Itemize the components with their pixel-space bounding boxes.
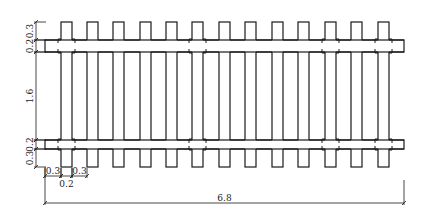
horizontal-dimension-label: 0.2 <box>59 179 73 189</box>
vertical-dimension-label: 0.2 <box>25 137 35 151</box>
horizontal-dimension-label: 0.3 <box>72 166 87 176</box>
lower-rail <box>45 140 404 149</box>
vertical-dimension-label: 0.2 <box>25 39 35 53</box>
overall-dimension-label: 6.8 <box>217 193 232 203</box>
horizontal-dimension-label: 0.3 <box>46 166 61 176</box>
vertical-dimension-label: 1.6 <box>25 89 35 104</box>
vertical-dimension-label: 0.3 <box>25 24 35 39</box>
upper-rail <box>45 40 404 52</box>
vertical-dimension-label: 0.3 <box>25 151 35 166</box>
track-plan-drawing: 0.30.21.60.20.30.30.20.36.8 <box>0 0 427 218</box>
